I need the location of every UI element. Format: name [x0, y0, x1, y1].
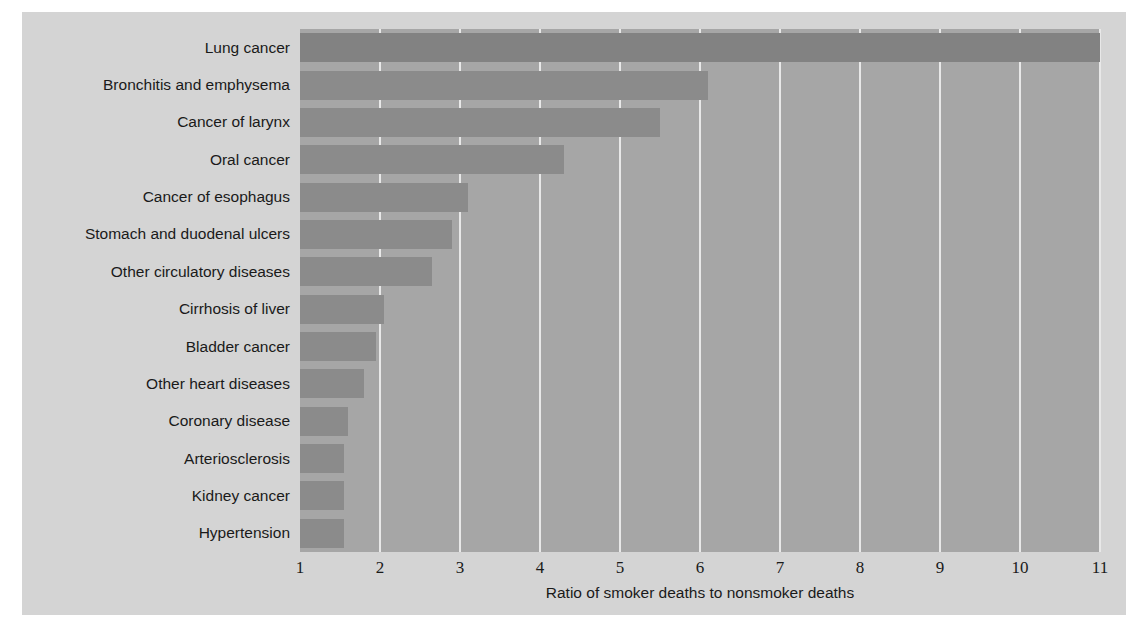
- category-label: Stomach and duodenal ulcers: [85, 226, 290, 242]
- bar-row: [300, 29, 1100, 66]
- bar: [300, 220, 452, 249]
- bar: [300, 444, 344, 473]
- bar: [300, 369, 364, 398]
- category-label: Other heart diseases: [146, 376, 290, 392]
- category-label: Bronchitis and emphysema: [103, 77, 290, 93]
- bar-row: [300, 66, 1100, 103]
- bar: [300, 257, 432, 286]
- category-label: Hypertension: [199, 525, 290, 541]
- x-tick-label: 7: [776, 558, 785, 578]
- x-tick-label: 4: [536, 558, 545, 578]
- bar-row: [300, 104, 1100, 141]
- bar-row: [300, 477, 1100, 514]
- bar: [300, 295, 384, 324]
- bar-row: [300, 178, 1100, 215]
- x-axis-title: Ratio of smoker deaths to nonsmoker deat…: [300, 584, 1100, 602]
- category-label: Arteriosclerosis: [184, 451, 290, 467]
- x-tick-label: 6: [696, 558, 705, 578]
- bar-row: [300, 515, 1100, 552]
- x-tick-label: 5: [616, 558, 625, 578]
- bar-row: [300, 253, 1100, 290]
- bar-row: [300, 365, 1100, 402]
- x-axis-tick-labels: 1234567891011: [300, 558, 1100, 582]
- bar-row: [300, 141, 1100, 178]
- bar-row: [300, 440, 1100, 477]
- category-axis-labels: Lung cancerBronchitis and emphysemaCance…: [22, 29, 290, 552]
- bar: [300, 332, 376, 361]
- x-tick-label: 2: [376, 558, 385, 578]
- x-tick-label: 8: [856, 558, 865, 578]
- bar: [300, 71, 708, 100]
- x-tick-label: 11: [1092, 558, 1108, 578]
- category-label: Kidney cancer: [192, 488, 290, 504]
- bar: [300, 33, 1100, 62]
- bar: [300, 145, 564, 174]
- bar-row: [300, 216, 1100, 253]
- category-label: Cirrhosis of liver: [179, 301, 290, 317]
- bar-row: [300, 328, 1100, 365]
- category-label: Cancer of esophagus: [143, 189, 290, 205]
- figure-panel: Lung cancerBronchitis and emphysemaCance…: [22, 12, 1126, 615]
- plot-area: [300, 29, 1100, 552]
- x-tick-label: 10: [1012, 558, 1029, 578]
- category-label: Bladder cancer: [186, 339, 290, 355]
- category-label: Other circulatory diseases: [111, 264, 290, 280]
- bar: [300, 519, 344, 548]
- category-label: Coronary disease: [169, 413, 290, 429]
- bar: [300, 481, 344, 510]
- bar: [300, 108, 660, 137]
- bar-chart: Lung cancerBronchitis and emphysemaCance…: [22, 12, 1126, 615]
- category-label: Cancer of larynx: [177, 114, 290, 130]
- bar: [300, 407, 348, 436]
- category-label: Oral cancer: [210, 152, 290, 168]
- bar-row: [300, 403, 1100, 440]
- bar: [300, 183, 468, 212]
- x-tick-label: 3: [456, 558, 465, 578]
- x-tick-label: 9: [936, 558, 945, 578]
- x-tick-label: 1: [296, 558, 305, 578]
- category-label: Lung cancer: [205, 40, 290, 56]
- bar-row: [300, 291, 1100, 328]
